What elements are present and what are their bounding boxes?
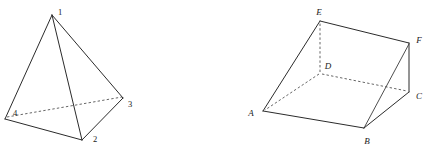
tetra-vertex-label-2: 2 [93, 134, 97, 144]
tetra-vertex-label-1: 1 [58, 7, 62, 17]
prism-vertex-label-C: C [416, 91, 423, 101]
prism-vertex-label-E: E [315, 7, 322, 17]
tetra-vertex-label-3: 3 [128, 99, 132, 109]
prism-vertex-label-D: D [324, 61, 332, 71]
prism-vertex-label-B: B [364, 136, 370, 146]
diagram-background [0, 0, 428, 155]
prism-vertex-label-A: A [247, 108, 254, 118]
geometry-diagram-canvas: 1 2 3 4 A B C D E F [0, 0, 428, 155]
prism-vertex-label-F: F [415, 35, 422, 45]
